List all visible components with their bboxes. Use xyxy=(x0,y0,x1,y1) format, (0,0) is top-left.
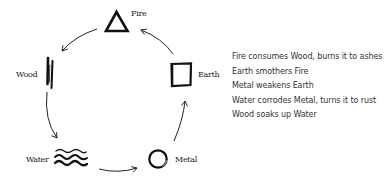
relations-list: Fire consumes Wood, burns it to ashes Ea… xyxy=(232,50,382,123)
element-label-earth: Earth xyxy=(198,70,219,79)
relation-item: Water corrodes Metal, turns it to rust xyxy=(232,94,382,109)
arrow-metal-to-earth xyxy=(174,101,185,141)
relation-item: Fire consumes Wood, burns it to ashes xyxy=(232,50,382,65)
square-icon xyxy=(172,64,192,87)
arrow-earth-to-fire xyxy=(141,30,173,54)
relation-item: Earth smothers Fire xyxy=(232,65,382,80)
circle-icon xyxy=(149,150,166,167)
arrow-fire-to-wood xyxy=(62,29,97,51)
waves-icon xyxy=(55,150,87,166)
vertical-strokes-icon xyxy=(48,58,53,88)
element-label-wood: Wood xyxy=(16,70,37,79)
element-label-metal: Metal xyxy=(175,155,197,164)
arrow-water-to-metal xyxy=(99,168,137,171)
relation-item: Metal weakens Earth xyxy=(232,79,382,94)
element-label-fire: Fire xyxy=(131,9,146,18)
element-label-water: Water xyxy=(26,155,49,164)
arrow-wood-to-water xyxy=(46,92,57,138)
triangle-icon xyxy=(106,12,128,31)
relation-item: Wood soaks up Water xyxy=(232,108,382,123)
